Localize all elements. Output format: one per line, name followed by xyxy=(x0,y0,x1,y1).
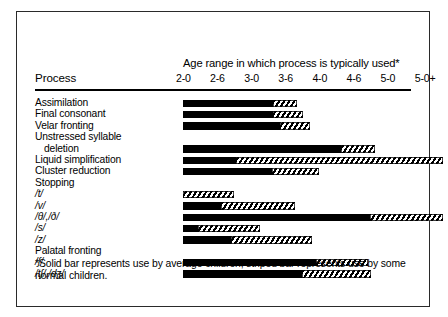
row-label: Cluster reduction xyxy=(35,165,110,176)
row-bar xyxy=(183,168,319,175)
row-label: /s/ xyxy=(35,222,45,233)
bar-segment-striped xyxy=(370,214,443,221)
bar-segment-solid xyxy=(183,157,236,164)
bar-segment-striped xyxy=(236,157,443,164)
row-bar xyxy=(183,202,295,209)
bar-segment-solid xyxy=(183,100,273,107)
row-label: /v/ xyxy=(35,200,45,211)
bar-segment-solid xyxy=(183,214,370,221)
chart-row: Palatal fronting xyxy=(17,246,429,257)
chart-row: /t/ xyxy=(17,189,429,200)
chart-row: /s/ xyxy=(17,223,429,234)
row-label: /z/ xyxy=(35,234,45,245)
bar-segment-striped xyxy=(183,191,234,198)
figure-frame: Process Age range in which process is ty… xyxy=(16,11,430,307)
row-bar xyxy=(183,122,310,129)
row-bar xyxy=(183,214,443,221)
row-bar xyxy=(183,111,303,118)
bar-segment-solid xyxy=(183,236,231,243)
row-label: Palatal fronting xyxy=(35,245,101,256)
row-bar xyxy=(183,236,312,243)
row-bar xyxy=(183,191,234,198)
chart-row: /v/ xyxy=(17,201,429,212)
axis-tick-4-6: 4-6 xyxy=(347,72,362,84)
bar-segment-solid xyxy=(183,168,272,175)
row-label: deletion xyxy=(44,143,79,154)
row-label: Velar fronting xyxy=(35,120,94,131)
chart-row: /θ/,/ð/ xyxy=(17,212,429,223)
chart-header: Process Age range in which process is ty… xyxy=(17,12,429,86)
row-bar xyxy=(183,100,297,107)
axis-tick-4-0: 4-0 xyxy=(312,72,327,84)
bar-segment-solid xyxy=(183,111,273,118)
row-label: /t/ xyxy=(35,188,43,199)
row-bar xyxy=(183,145,375,152)
row-label: Assimilation xyxy=(35,97,88,108)
row-label: Final consonant xyxy=(35,108,105,119)
chart-rows: AssimilationFinal consonantVelar frontin… xyxy=(17,98,429,280)
row-label: Liquid simplification xyxy=(35,154,121,165)
axis-tick-3-6: 3-6 xyxy=(278,72,293,84)
bar-segment-solid xyxy=(183,202,221,209)
axis-title: Age range in which process is typically … xyxy=(183,57,400,69)
bar-segment-striped xyxy=(341,145,375,152)
bar-segment-striped xyxy=(273,100,297,107)
bar-segment-solid xyxy=(183,145,341,152)
bar-segment-striped xyxy=(231,236,312,243)
bar-segment-striped xyxy=(273,111,303,118)
bar-segment-striped xyxy=(198,225,260,232)
bar-segment-striped xyxy=(221,202,295,209)
bar-segment-striped xyxy=(280,122,310,129)
axis-tick-2-6: 2-6 xyxy=(210,72,225,84)
axis-tick-labels: 2-02-63-03-64-04-65-05-0+ xyxy=(17,72,429,86)
row-bar xyxy=(183,225,260,232)
footnote: *Solid bar represents use by average chi… xyxy=(35,258,407,283)
bar-segment-striped xyxy=(272,168,319,175)
row-bar xyxy=(183,157,443,164)
chart-row: Stopping xyxy=(17,178,429,189)
axis-tick-5-0+: 5-0+ xyxy=(415,72,436,84)
chart-row: Cluster reduction xyxy=(17,166,429,177)
bar-segment-solid xyxy=(183,122,280,129)
axis-tick-3-0: 3-0 xyxy=(244,72,259,84)
axis-tick-2-0: 2-0 xyxy=(176,72,191,84)
header-rule xyxy=(35,89,411,91)
bar-segment-solid xyxy=(183,225,198,232)
axis-tick-5-0: 5-0 xyxy=(381,72,396,84)
row-label: Unstressed syllable xyxy=(35,131,121,142)
row-label: Stopping xyxy=(35,177,74,188)
row-label: /θ/,/ð/ xyxy=(35,211,59,222)
